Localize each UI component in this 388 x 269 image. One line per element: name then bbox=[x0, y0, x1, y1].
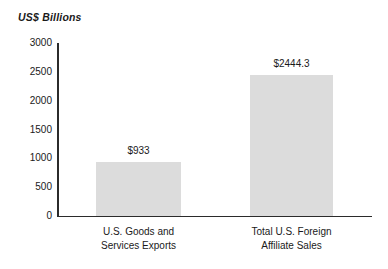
y-tick-label: 500 bbox=[0, 182, 52, 192]
bar-value-label: $2444.3 bbox=[273, 58, 309, 69]
bar bbox=[96, 162, 181, 216]
y-tick-label: 0 bbox=[0, 211, 52, 221]
y-axis-line bbox=[57, 43, 59, 217]
x-category-label: Total U.S. ForeignAffiliate Sales bbox=[251, 225, 331, 252]
y-tick-label: 1500 bbox=[0, 125, 52, 135]
x-category-label: U.S. Goods andServices Exports bbox=[101, 225, 176, 252]
bar-chart-figure: US$ Billions 050010001500200025003000 $9… bbox=[0, 0, 388, 269]
y-tick-label: 1000 bbox=[0, 153, 52, 163]
bar bbox=[250, 75, 333, 216]
y-tick-label: 3000 bbox=[0, 38, 52, 48]
x-category-label-line: Total U.S. Foreign bbox=[251, 225, 331, 239]
x-category-label-line: Services Exports bbox=[101, 239, 176, 253]
y-tick-label: 2500 bbox=[0, 67, 52, 77]
bar-value-label: $933 bbox=[127, 145, 149, 156]
y-axis-tick-labels: 050010001500200025003000 bbox=[0, 0, 52, 269]
y-tick-label: 2000 bbox=[0, 96, 52, 106]
x-category-label-line: Affiliate Sales bbox=[251, 239, 331, 253]
x-category-label-line: U.S. Goods and bbox=[101, 225, 176, 239]
